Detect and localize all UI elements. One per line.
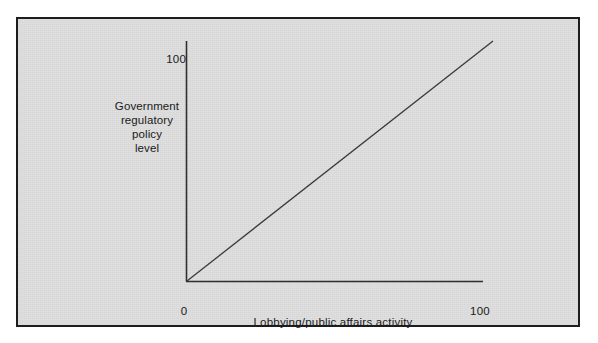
data-line-series-1 <box>187 41 493 281</box>
y-axis-title-line-4: level <box>102 141 192 155</box>
figure-border-frame: 100 Government regulatory policy level 0… <box>16 17 580 327</box>
figure-root: 100 Government regulatory policy level 0… <box>0 0 598 343</box>
y-axis-title: Government regulatory policy level <box>102 99 192 155</box>
y-axis-max-tick-label: 100 <box>138 53 186 65</box>
y-axis-title-line-1: Government <box>102 99 192 113</box>
y-axis-title-line-3: policy <box>102 127 192 141</box>
plot-area <box>18 19 578 325</box>
x-axis-max-tick-label: 100 <box>460 305 500 317</box>
y-axis-title-line-2: regulatory <box>102 113 192 127</box>
x-axis-min-tick-label: 0 <box>174 305 194 317</box>
x-axis-title: Lobbying/public affairs activity <box>218 316 448 328</box>
